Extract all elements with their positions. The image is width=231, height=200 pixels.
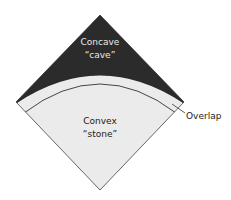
concave-sublabel: “cave” bbox=[85, 50, 116, 60]
concave-label: Concave bbox=[81, 37, 120, 47]
overlap-label: Overlap bbox=[186, 111, 222, 121]
concave-convex-diagram: Concave “cave” Convex “stone” Overlap bbox=[0, 0, 231, 200]
convex-sublabel: “stone” bbox=[83, 129, 117, 139]
convex-label: Convex bbox=[83, 116, 117, 126]
